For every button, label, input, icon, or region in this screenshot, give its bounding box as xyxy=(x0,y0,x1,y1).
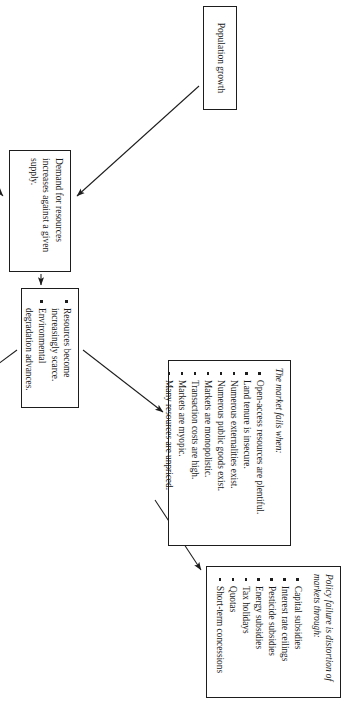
node-market-fails: The market fails when: Open-access resou… xyxy=(168,360,291,546)
list-item: Interest rate ceilings xyxy=(278,586,290,690)
list-item: Short-term concessions xyxy=(214,586,226,690)
list-item: Land tenure is insecure. xyxy=(241,380,253,538)
list-item: Resources become increasingly scarce. xyxy=(48,308,73,400)
list-item: Open-access resources are plentiful. xyxy=(253,380,265,538)
node-demand-label: Demand for resources increases against a… xyxy=(29,158,64,252)
list-item: Many resources are unpriced. xyxy=(163,380,175,538)
list-item: Environmental degradation advances. xyxy=(23,308,48,400)
node-market-fails-heading: The market fails when: xyxy=(273,368,285,538)
node-policy-failure-heading: Policy failure is distortion of markets … xyxy=(311,574,335,690)
list-item: Numerous externalities exist. xyxy=(228,380,240,538)
node-resource-scarcity-list: Resources become increasingly scarce. En… xyxy=(23,296,73,400)
node-population-growth-label: Population growth xyxy=(214,23,225,93)
node-population-growth: Population growth xyxy=(203,6,237,110)
list-item: Quotas xyxy=(227,586,239,690)
edge-population-to-demand xyxy=(77,86,199,196)
node-demand-for-resources: Demand for resources increases against a… xyxy=(9,150,71,272)
edge-resources-to-fails xyxy=(83,350,163,412)
list-item: Markets are myopic. xyxy=(176,380,188,538)
list-item: Pesticide subsidies xyxy=(265,586,277,690)
node-resource-scarcity: Resources become increasingly scarce. En… xyxy=(21,288,79,408)
list-item: Numerous public goods exist. xyxy=(215,380,227,538)
list-item: Capital subsidies xyxy=(291,586,303,690)
node-market-fails-list: Open-access resources are plentiful. Lan… xyxy=(163,368,266,538)
list-item: Markets are monopolistic. xyxy=(202,380,214,538)
list-item: Transaction costs are high. xyxy=(189,380,201,538)
list-item: Energy subsidies xyxy=(253,586,265,690)
node-policy-failure: Policy failure is distortion of markets … xyxy=(206,566,341,698)
diagram-canvas: Economic growth Population growth Demand… xyxy=(0,0,351,704)
scanned-page: Economic growth Population growth Demand… xyxy=(0,0,351,704)
list-item: Tax holidays xyxy=(240,586,252,690)
edge-economic-to-demand xyxy=(0,86,3,196)
node-policy-failure-list: Capital subsidies Interest rate ceilings… xyxy=(214,574,304,690)
edge-resources-to-succeeds xyxy=(0,350,17,412)
